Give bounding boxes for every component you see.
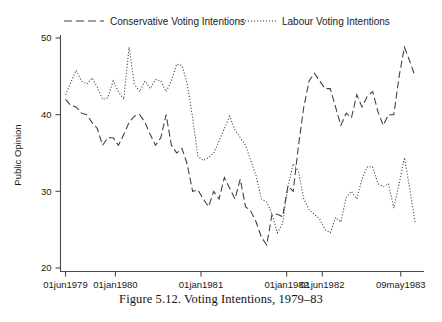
series-line-labour: [66, 47, 416, 233]
voting-intentions-line-chart: Conservative Voting Intentions Labour Vo…: [0, 0, 442, 292]
y-tick-label: 40: [41, 109, 52, 120]
figure-caption: Figure 5.12. Voting Intentions, 1979–83: [0, 292, 442, 307]
x-tick-label: 01jun1979: [43, 279, 87, 290]
x-tick-label: 09may1983: [376, 279, 426, 290]
x-tick-group: 01jun197901jan198001jan198101jan198201ju…: [43, 272, 425, 290]
y-axis-title: Public Opinion: [12, 124, 23, 185]
legend: Conservative Voting Intentions Labour Vo…: [64, 16, 390, 27]
legend-label-conservative: Conservative Voting Intentions: [110, 16, 245, 27]
y-axis: 20304050 Public Opinion: [12, 32, 61, 273]
y-tick-label: 20: [41, 262, 52, 273]
y-tick-label: 30: [41, 186, 52, 197]
x-tick-label: 01jun1982: [300, 279, 344, 290]
figure-container: Conservative Voting Intentions Labour Vo…: [0, 0, 442, 322]
legend-label-labour: Labour Voting Intentions: [282, 16, 390, 27]
y-tick-group: 20304050: [41, 32, 61, 273]
y-tick-label: 50: [41, 32, 52, 43]
x-axis: 01jun197901jan198001jan198101jan198201ju…: [43, 272, 425, 290]
x-tick-label: 01jan1980: [93, 279, 137, 290]
x-tick-label: 01jan1981: [179, 279, 223, 290]
series-line-conservative: [66, 47, 416, 245]
series-group: [66, 47, 416, 245]
